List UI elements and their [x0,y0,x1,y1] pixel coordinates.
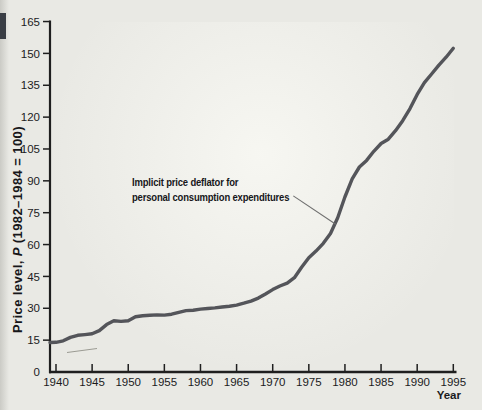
y-axis-title-suffix: (1982–1984 = 100) [10,126,25,247]
y-axis-title-prefix: Price level, [10,256,25,333]
figure: 0153045607590105120135150165194019451950… [0,0,482,410]
y-tick-label: 90 [27,175,40,187]
x-tick-label: 1945 [79,376,105,388]
y-tick-label: 165 [21,16,40,28]
x-axis-title: Year [437,389,462,401]
x-tick-label: 1965 [224,376,250,388]
x-tick-label: 1940 [43,376,69,388]
annotation-line1: Implicit price deflator for [132,175,289,190]
y-axis-title: Price level, P (1982–1984 = 100) [10,126,25,333]
y-axis-title-variable: P [10,247,25,256]
y-tick-label: 30 [27,302,40,314]
x-tick-label: 1955 [152,376,178,388]
print-artifact-line [67,349,97,353]
x-tick-label: 1970 [260,376,286,388]
x-tick-label: 1960 [188,376,214,388]
annotation-line2: personal consumption expenditures [132,190,289,205]
y-tick-label: 150 [21,48,40,60]
y-tick-label: 120 [21,111,40,123]
y-tick-label: 45 [27,271,40,283]
x-tick-label: 1975 [296,376,322,388]
x-tick-label: 1950 [115,376,141,388]
y-tick-label: 75 [27,207,40,219]
x-tick-label: 1980 [332,376,358,388]
annotation-leader-line [293,196,335,224]
x-tick-label: 1990 [404,376,430,388]
y-tick-label: 60 [27,239,40,251]
chart-plot: 0153045607590105120135150165194019451950… [0,0,482,410]
y-tick-label: 15 [27,334,40,346]
series-annotation: Implicit price deflator for personal con… [132,175,289,204]
y-tick-label: 0 [34,366,40,378]
x-tick-label: 1995 [441,376,467,388]
y-tick-label: 135 [21,79,40,91]
x-tick-label: 1985 [368,376,394,388]
